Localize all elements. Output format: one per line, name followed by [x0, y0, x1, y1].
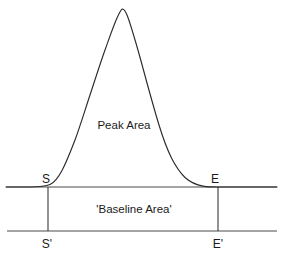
- end-point-label: E: [211, 172, 219, 186]
- start-prime-point-label: S': [42, 237, 52, 251]
- end-prime-point-label: E': [213, 237, 223, 251]
- peak-area-label: Peak Area: [97, 119, 151, 131]
- figure-canvas: Peak Area 'Baseline Area' S E S' E': [0, 0, 284, 257]
- peak-integration-diagram: Peak Area 'Baseline Area' S E S' E': [0, 0, 284, 257]
- baseline-area-label: 'Baseline Area': [96, 203, 171, 215]
- peak-curve: [6, 9, 277, 187]
- start-point-label: S: [42, 172, 50, 186]
